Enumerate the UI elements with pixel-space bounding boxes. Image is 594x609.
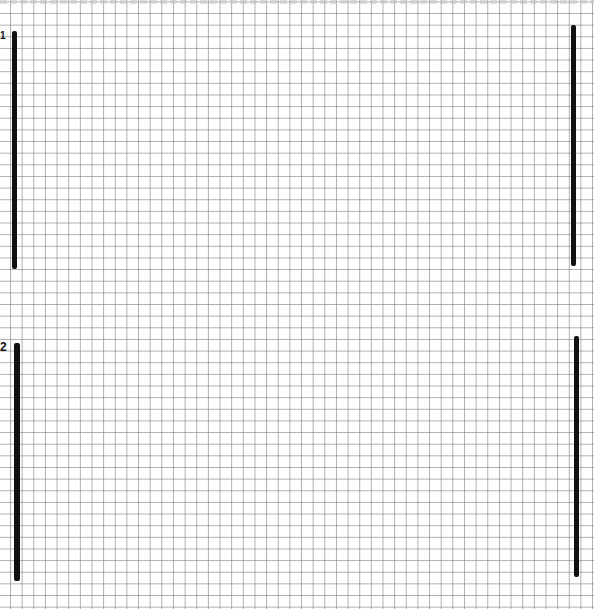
graph-paper-grid	[0, 0, 594, 609]
section-2-label: 2	[0, 341, 7, 353]
section-1-left-bar	[12, 31, 17, 269]
section-1-right-bar	[571, 25, 576, 266]
cropped-header-text	[0, 0, 594, 4]
section-1-label: 1	[0, 30, 6, 42]
section-2-right-bar	[574, 336, 579, 577]
section-2-left-bar	[14, 343, 20, 581]
